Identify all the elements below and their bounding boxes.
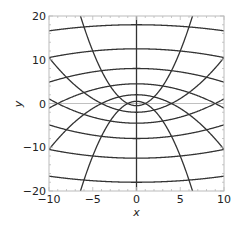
y-tick-label: 10 <box>32 54 46 67</box>
parabolic-coordinates-chart: −10−50510 −20−1001020 x y <box>0 0 242 232</box>
x-tick-labels: −10−50510 <box>37 193 231 206</box>
x-tick-label: −5 <box>85 193 101 206</box>
x-axis-label: x <box>132 206 140 219</box>
x-tick-label: 10 <box>217 193 231 206</box>
x-tick-label: 0 <box>133 193 140 206</box>
y-tick-label: 20 <box>32 10 46 23</box>
y-tick-labels: −20−1001020 <box>23 10 46 198</box>
x-tick-label: 5 <box>177 193 184 206</box>
y-axis-label: y <box>12 100 25 108</box>
y-tick-label: 0 <box>39 98 46 111</box>
y-tick-label: −20 <box>23 185 46 198</box>
y-tick-label: −10 <box>23 141 46 154</box>
